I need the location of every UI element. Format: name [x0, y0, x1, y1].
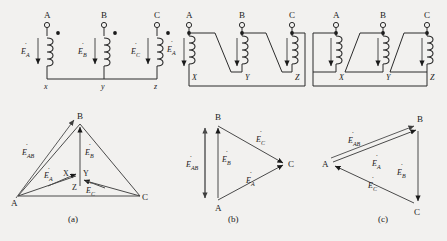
- winding-label-a-EB: EB: [77, 47, 87, 58]
- winding-label-a-EC: EC: [130, 47, 141, 58]
- winding-coil-c-B: [383, 36, 389, 64]
- polarity-dot-a-C: [166, 31, 170, 35]
- caption-b: (b): [228, 214, 239, 224]
- terminal-node-b-C: [289, 22, 294, 27]
- phasor-vertex-b-C: C: [288, 159, 294, 169]
- winding-coil-c-A: [336, 36, 342, 64]
- phasor-neutral-a-X: X: [63, 169, 69, 178]
- terminal-label-c-B: B: [380, 10, 386, 20]
- bottom-terminal-c-Y: Y: [386, 73, 392, 82]
- delta-link-b-XB: [189, 33, 242, 72]
- panel-b-phasor: B C A EAB . EB . EC . EA .: [185, 112, 294, 213]
- overdot-a-EC: .: [135, 38, 137, 46]
- panel-c-phasor: B A C EAB . EA . EB . EC .: [322, 114, 423, 217]
- bottom-terminal-b-X: X: [191, 73, 198, 82]
- phasor-triangle-a: [18, 124, 140, 196]
- phasor-label-c-EA: EA: [371, 159, 381, 170]
- phasor-vertex-a-B: B: [77, 111, 83, 121]
- diagram-svg: A EA . B EB . C EC .: [0, 0, 447, 241]
- winding-coil-b-C: [292, 36, 298, 64]
- phasor-label-b-EA: EA: [245, 176, 255, 187]
- bottom-terminal-a-y: y: [100, 82, 105, 91]
- terminal-label-a-A: A: [44, 10, 51, 20]
- overdot-ph-c-EC: .: [372, 172, 374, 180]
- panel-a-phasor: A B C X Y Z EAB . EB . EA . EC .: [11, 111, 148, 208]
- overdot-ph-b-EB: .: [226, 146, 228, 154]
- bottom-terminal-a-x: x: [43, 82, 48, 91]
- overdot-a-EA: .: [25, 38, 27, 46]
- terminal-label-a-B: B: [101, 10, 107, 20]
- terminal-label-c-C: C: [424, 10, 430, 20]
- delta-link-c-mid: [345, 33, 383, 72]
- phasor-label-b-EC: EC: [255, 135, 266, 146]
- phasor-label-a-EB: EB: [84, 148, 94, 159]
- winding-coil-b-B: [242, 36, 248, 64]
- phasor-vertex-c-C: C: [414, 207, 420, 217]
- overdot-ph-c-EAB: .: [352, 127, 354, 135]
- terminal-label-b-A: A: [186, 10, 193, 20]
- terminal-node-c-B: [380, 22, 385, 27]
- phasor-label-c-EAB: EAB: [347, 136, 361, 147]
- phasor-label-b-EAB: EAB: [185, 160, 199, 171]
- caption-a: (a): [68, 214, 78, 224]
- overdot-ph-b-EC: .: [260, 126, 262, 134]
- terminal-label-b-B: B: [239, 10, 245, 20]
- terminal-node-a-B: [101, 22, 106, 27]
- terminal-node-b-A: [186, 22, 191, 27]
- panel-a-circuit: A EA . B EB . C EC .: [20, 10, 170, 91]
- winding-label-a-EA: EA: [20, 47, 30, 58]
- phasor-c-EAB: [331, 126, 414, 158]
- phasor-label-a-EA: EA: [43, 171, 53, 182]
- phasor-vertex-a-C: C: [142, 192, 148, 202]
- bottom-terminal-c-Z: Z: [430, 73, 435, 82]
- terminal-node-a-A: [44, 22, 49, 27]
- winding-label-b-EA: EA: [166, 45, 176, 56]
- caption-c: (c): [378, 214, 388, 224]
- bottom-terminal-a-z: z: [153, 82, 158, 91]
- polarity-dot-a-B: [113, 31, 117, 35]
- bottom-terminal-c-X: X: [338, 73, 345, 82]
- panel-c-circuit: A X B Y C Z: [313, 10, 435, 86]
- polarity-dot-a-A: [56, 31, 60, 35]
- delta-link-c-left: [313, 33, 336, 72]
- phasor-label-c-EC: EC: [367, 181, 378, 192]
- phasor-neutral-a-Z: Z: [72, 183, 77, 192]
- phasor-c-EA: [333, 130, 416, 162]
- phasor-vertex-b-A: A: [215, 203, 222, 213]
- phasor-vertex-a-A: A: [11, 198, 18, 208]
- winding-coil-a-C: [157, 38, 163, 66]
- panel-b-circuit: A EA . X B Y C Z: [166, 10, 305, 86]
- overdot-ph-a-EAB: .: [26, 139, 28, 147]
- overdot-ph-c-EB: .: [401, 159, 403, 167]
- overdot-ph-a-EC: .: [90, 178, 92, 186]
- phasor-vertex-b-B: B: [215, 112, 221, 122]
- overdot-b-EA: .: [171, 36, 173, 44]
- terminal-node-c-C: [424, 22, 429, 27]
- figure-canvas: A EA . B EB . C EC .: [0, 0, 447, 241]
- phasor-vertex-c-A: A: [322, 159, 329, 169]
- overdot-ph-a-EB: .: [89, 139, 91, 147]
- phasor-neutral-a-Y: Y: [83, 169, 89, 178]
- terminal-label-a-C: C: [154, 10, 160, 20]
- delta-link-c-right: [390, 33, 427, 72]
- winding-coil-c-C: [427, 36, 433, 64]
- winding-coil-a-A: [47, 38, 53, 66]
- delta-link-c-bottom: [313, 72, 427, 86]
- overdot-ph-c-EA: .: [376, 150, 378, 158]
- terminal-node-c-A: [333, 22, 338, 27]
- overdot-ph-a-EA: .: [48, 163, 50, 171]
- winding-coil-b-A: [189, 36, 195, 64]
- delta-link-b-YC: [242, 33, 292, 72]
- phasor-label-a-EAB: EAB: [21, 148, 35, 159]
- overdot-ph-b-EA: .: [250, 167, 252, 175]
- terminal-label-c-A: A: [333, 10, 340, 20]
- overdot-ph-b-EAB: .: [190, 151, 192, 159]
- phasor-label-a-EC: EC: [85, 186, 96, 197]
- bottom-terminal-b-Y: Y: [245, 73, 251, 82]
- winding-coil-a-B: [104, 38, 110, 66]
- overdot-a-EB: .: [82, 38, 84, 46]
- terminal-node-a-C: [154, 22, 159, 27]
- phasor-b-EC: [218, 126, 283, 163]
- phasor-label-b-EB: EB: [221, 155, 231, 166]
- terminal-label-b-C: C: [289, 10, 295, 20]
